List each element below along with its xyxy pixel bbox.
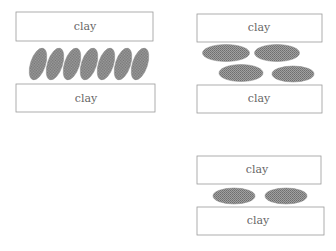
clay-layer-top: clay — [16, 12, 153, 41]
particles-staggered — [203, 45, 315, 83]
clay-layer-bottom: clay — [16, 84, 155, 112]
particle — [265, 188, 307, 204]
clay-label: clay — [75, 92, 98, 105]
particle — [94, 46, 118, 82]
particles-single-row — [213, 188, 307, 204]
clay-label: clay — [247, 214, 270, 227]
clay-layer-bottom: clay — [197, 207, 324, 235]
clay-label: clay — [246, 163, 269, 176]
particle — [77, 46, 101, 82]
particles-tilted — [26, 46, 152, 82]
particle — [43, 46, 67, 82]
particle — [219, 65, 263, 82]
clay-label: clay — [248, 21, 271, 34]
clay-layer-bottom: clay — [197, 85, 322, 113]
panel-right-bottom: clay clay — [197, 156, 324, 235]
panel-right-top: clay clay — [197, 14, 322, 113]
particle — [60, 46, 84, 82]
panel-left: clay clay — [16, 12, 155, 112]
particle — [213, 188, 255, 204]
particle — [111, 46, 135, 82]
clay-particle-diagram: clay clay clay clay — [0, 0, 336, 251]
particle — [272, 66, 314, 82]
particle — [128, 46, 152, 82]
clay-layer-top: clay — [197, 14, 322, 42]
particle — [203, 45, 250, 62]
particle — [255, 45, 300, 62]
clay-layer-top: clay — [197, 156, 321, 184]
clay-label: clay — [74, 20, 97, 33]
clay-label: clay — [248, 92, 271, 105]
particle — [26, 46, 50, 82]
